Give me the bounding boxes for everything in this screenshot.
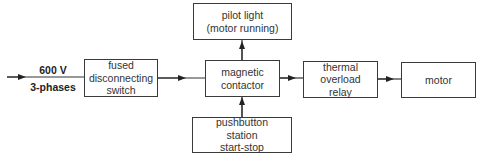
block-text: relay [329, 86, 352, 99]
block-text: contactor [221, 79, 264, 92]
block-text: disconnecting [89, 72, 153, 85]
pushbutton-station-block: pushbutton station start-stop [192, 117, 292, 153]
magnetic-contactor-block: magnetic contactor [205, 60, 280, 97]
block-text: start-stop [220, 141, 264, 154]
block-text: magnetic [221, 66, 264, 79]
block-text: overload [320, 73, 360, 86]
block-text: motor [425, 74, 452, 87]
motor-block: motor [401, 62, 476, 98]
block-text: pushbutton [216, 116, 268, 129]
input-voltage-label: 600 V [13, 64, 93, 76]
thermal-overload-relay-block: thermal overload relay [303, 61, 378, 98]
block-text: pilot light [222, 9, 263, 22]
fused-disconnecting-switch-block: fused disconnecting switch [84, 59, 158, 97]
block-text: fused [108, 59, 134, 72]
input-phases-label: 3-phases [13, 81, 93, 93]
block-text: thermal [323, 61, 358, 74]
block-text: station [227, 129, 258, 142]
block-text: switch [106, 84, 135, 97]
pilot-light-block: pilot light (motor running) [193, 3, 292, 40]
block-text: (motor running) [207, 22, 279, 35]
